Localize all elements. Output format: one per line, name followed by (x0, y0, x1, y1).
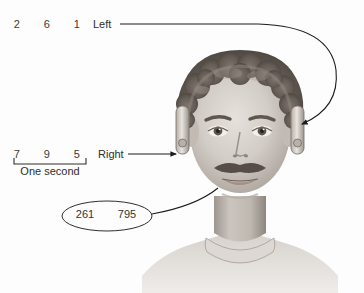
right-digit: 9 (40, 148, 54, 160)
right-channel-label: Right (98, 148, 124, 160)
left-digit: 1 (70, 18, 84, 30)
left-digit: 2 (10, 18, 24, 30)
time-scale-caption: One second (12, 165, 88, 177)
neck (214, 196, 266, 242)
dichotic-listening-figure: 2 6 1 Left 7 9 5 Right One second 261 79… (0, 0, 364, 293)
shirt (142, 236, 338, 293)
recall-item: 795 (114, 208, 140, 220)
recall-ellipse-contents: 261 795 (72, 208, 142, 224)
left-digit: 6 (40, 18, 54, 30)
right-earphone (291, 106, 304, 154)
left-channel-label: Left (93, 18, 111, 30)
left-earphone (176, 106, 189, 154)
right-digit: 5 (70, 148, 84, 160)
portrait-svg (140, 28, 340, 293)
recall-item: 261 (72, 208, 98, 220)
head-with-headphones-illustration (140, 28, 340, 293)
right-digit: 7 (10, 148, 24, 160)
